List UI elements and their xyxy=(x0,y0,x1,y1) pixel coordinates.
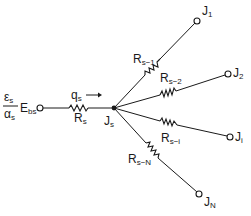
branch-2-resistor-label: Rs−2 xyxy=(160,71,182,86)
epsilon-symbol: εs xyxy=(4,90,13,105)
junction-label: Js xyxy=(104,114,114,129)
node-ji-terminal xyxy=(227,134,233,140)
branch-n-resistor-label: Rs−N xyxy=(128,152,151,167)
flow-label: qs xyxy=(71,88,82,103)
branch-n: Rs−N JN xyxy=(114,108,216,210)
node-jn-terminal xyxy=(196,191,202,197)
flow-arrow-icon xyxy=(86,93,102,98)
node-j1-terminal xyxy=(194,18,200,24)
resistor-network-diagram: εs αs Ebs qs Rs Js Rs−1 J1 Rs−2 J2 xyxy=(0,0,251,216)
node-ji-label: Ji xyxy=(235,130,243,145)
branch-i-resistor-label: Rs−i xyxy=(161,131,180,146)
potential-symbol: Ebs xyxy=(20,101,36,116)
node-jn-label: JN xyxy=(204,195,216,210)
alpha-symbol: αs xyxy=(4,107,15,122)
branch-n-resistor-icon xyxy=(146,142,159,158)
node-j2-label: J2 xyxy=(233,66,244,81)
source-resistor-label: Rs xyxy=(74,111,87,126)
branch-1-resistor-label: Rs−1 xyxy=(133,52,155,67)
branch-i: Rs−i Ji xyxy=(114,108,243,146)
source-label: εs αs Ebs xyxy=(3,90,36,122)
source-terminal xyxy=(37,105,43,111)
branch-2-resistor-icon xyxy=(160,88,176,97)
node-j1-label: J1 xyxy=(202,4,213,19)
branch-1: Rs−1 J1 xyxy=(114,4,213,108)
branch-i-resistor-icon xyxy=(160,118,177,126)
node-j2-terminal xyxy=(225,71,231,77)
